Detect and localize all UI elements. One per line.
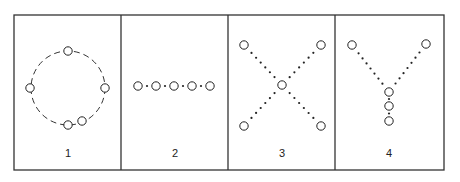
connection-dot bbox=[388, 98, 390, 100]
node-circle bbox=[278, 81, 286, 89]
outer-frame bbox=[14, 15, 444, 170]
connection-dot bbox=[402, 72, 404, 74]
node-circle bbox=[385, 102, 393, 110]
connection-dot bbox=[264, 66, 266, 68]
connection-dot bbox=[303, 107, 305, 109]
connection-dot bbox=[260, 61, 262, 63]
connection-dot bbox=[200, 85, 202, 87]
panel-1-circle-network: 1 bbox=[26, 47, 109, 159]
node-circle bbox=[26, 84, 34, 92]
connection-dot bbox=[298, 66, 300, 68]
connection-dot bbox=[303, 61, 305, 63]
connection-dot bbox=[264, 102, 266, 104]
connection-dot bbox=[361, 57, 363, 59]
connection-dot bbox=[250, 117, 252, 119]
connection-dot bbox=[250, 52, 252, 54]
connection-dot bbox=[377, 77, 379, 79]
connection-dot bbox=[394, 82, 396, 84]
connection-dot bbox=[308, 57, 310, 59]
connection-dot bbox=[164, 85, 166, 87]
panel-label: 1 bbox=[65, 147, 71, 159]
connection-dot bbox=[289, 76, 291, 78]
panel-4-y-network: 4 bbox=[348, 40, 430, 159]
connection-dot bbox=[312, 117, 314, 119]
panel-label: 4 bbox=[386, 147, 392, 159]
node-circle bbox=[240, 41, 248, 49]
node-circle bbox=[78, 117, 86, 125]
node-circle bbox=[170, 82, 178, 90]
connection-dot bbox=[146, 85, 148, 87]
node-circle bbox=[206, 82, 214, 90]
connection-dot bbox=[308, 112, 310, 114]
connection-dot bbox=[398, 77, 400, 79]
node-circle bbox=[134, 82, 142, 90]
connection-dot bbox=[260, 107, 262, 109]
node-circle bbox=[188, 82, 196, 90]
connection-dot bbox=[269, 71, 271, 73]
connection-dot bbox=[369, 67, 371, 69]
panel-2-chain-network: 2 bbox=[134, 82, 214, 159]
connection-dot bbox=[293, 71, 295, 73]
dashed-ring bbox=[31, 51, 105, 125]
connection-dot bbox=[414, 57, 416, 59]
network-diagram-figure: 1 2 3 4 bbox=[0, 0, 460, 182]
connection-dot bbox=[381, 83, 383, 85]
node-circle bbox=[385, 117, 393, 125]
connection-dot bbox=[293, 97, 295, 99]
node-circle bbox=[152, 82, 160, 90]
panel-label: 3 bbox=[279, 147, 285, 159]
connection-dot bbox=[273, 76, 275, 78]
node-circle bbox=[240, 122, 248, 130]
connection-dot bbox=[418, 51, 420, 53]
connection-dot bbox=[410, 62, 412, 64]
node-circle bbox=[317, 41, 325, 49]
node-circle bbox=[64, 121, 72, 129]
connection-dot bbox=[373, 72, 375, 74]
connection-dot bbox=[255, 112, 257, 114]
connection-dot bbox=[357, 52, 359, 54]
connection-dot bbox=[388, 112, 390, 114]
panel-3-star-network: 3 bbox=[240, 41, 325, 159]
connection-dot bbox=[289, 92, 291, 94]
connection-dot bbox=[298, 102, 300, 104]
connection-dot bbox=[269, 97, 271, 99]
node-circle bbox=[385, 88, 393, 96]
connection-dot bbox=[365, 62, 367, 64]
node-circle bbox=[348, 41, 356, 49]
connection-dot bbox=[312, 52, 314, 54]
panel-label: 2 bbox=[172, 147, 178, 159]
node-circle bbox=[101, 84, 109, 92]
connection-dot bbox=[273, 92, 275, 94]
connection-dot bbox=[406, 67, 408, 69]
node-circle bbox=[64, 47, 72, 55]
node-circle bbox=[317, 122, 325, 130]
node-circle bbox=[422, 40, 430, 48]
connection-dot bbox=[255, 57, 257, 59]
connection-dot bbox=[182, 85, 184, 87]
panel-dividers bbox=[121, 15, 335, 170]
